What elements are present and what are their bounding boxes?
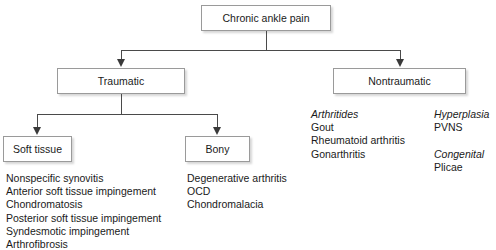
list-item: Rheumatoid arthritis <box>311 134 405 147</box>
node-traumatic[interactable]: Traumatic <box>57 68 185 94</box>
list-heading: Congenital <box>434 148 489 161</box>
list-nontraumatic-hyperplasia-congenital: Hyperplasia PVNS Congenital Plicae <box>434 108 489 174</box>
list-item: Gonarthritis <box>311 148 405 161</box>
list-item: Degenerative arthritis <box>187 172 287 185</box>
node-soft-tissue[interactable]: Soft tissue <box>3 136 72 162</box>
list-item: Syndesmotic impingement <box>6 225 161 238</box>
list-item: Posterior soft tissue impingement <box>6 212 161 225</box>
connector-level2-bus <box>37 114 217 115</box>
list-item: Gout <box>311 121 405 134</box>
node-chronic-ankle-pain-label: Chronic ankle pain <box>223 13 310 24</box>
arrowhead-traumatic <box>117 59 125 67</box>
list-item: Anterior soft tissue impingement <box>6 185 161 198</box>
node-nontraumatic-label: Nontraumatic <box>368 76 430 87</box>
arrowhead-bony <box>213 127 221 135</box>
list-gap <box>434 134 489 147</box>
flowchart-canvas: Chronic ankle pain Traumatic Nontraumati… <box>0 0 496 250</box>
connector-level2-left-drop <box>37 114 38 128</box>
list-heading: Arthritides <box>311 108 405 121</box>
list-item: Chondromalacia <box>187 198 287 211</box>
node-bony[interactable]: Bony <box>185 136 250 162</box>
list-bony: Degenerative arthritis OCD Chondromalaci… <box>187 172 287 212</box>
list-nontraumatic-arthritides: Arthritides Gout Rheumatoid arthritis Go… <box>311 108 405 161</box>
node-soft-tissue-label: Soft tissue <box>13 144 62 155</box>
list-item: Plicae <box>434 161 489 174</box>
list-item: OCD <box>187 185 287 198</box>
node-traumatic-label: Traumatic <box>98 76 144 87</box>
node-nontraumatic[interactable]: Nontraumatic <box>333 68 466 94</box>
arrowhead-nontraumatic <box>396 59 404 67</box>
arrowhead-soft-tissue <box>33 127 41 135</box>
connector-traumatic-stem <box>121 94 122 114</box>
connector-level1-bus <box>121 50 401 51</box>
node-chronic-ankle-pain[interactable]: Chronic ankle pain <box>201 5 331 31</box>
connector-root-stem <box>266 31 267 50</box>
connector-level2-right-drop <box>217 114 218 128</box>
list-item: Arthrofibrosis <box>6 238 161 250</box>
list-heading: Hyperplasia <box>434 108 489 121</box>
node-bony-label: Bony <box>206 144 230 155</box>
list-item: Chondromatosis <box>6 198 161 211</box>
list-soft-tissue: Nonspecific synovitis Anterior soft tiss… <box>6 172 161 250</box>
list-item: PVNS <box>434 121 489 134</box>
list-item: Nonspecific synovitis <box>6 172 161 185</box>
